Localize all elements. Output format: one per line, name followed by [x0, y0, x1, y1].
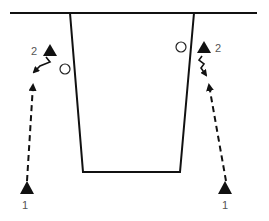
right-player-1-triangle-icon: [218, 181, 232, 194]
right-player-1-cut-path: [209, 85, 226, 181]
left-player-1-label: 1: [22, 199, 28, 211]
right-player-2-cut-path: [199, 56, 206, 75]
play-diagram: 1 2 1 2: [0, 0, 269, 221]
left-player-1-cut-path: [27, 85, 33, 181]
diagram-canvas: 1 2 1 2: [0, 0, 269, 221]
right-player-2-label: 2: [215, 42, 221, 54]
right-defender-circle-icon: [176, 42, 186, 52]
left-player-2-label: 2: [31, 45, 37, 57]
left-player-2-triangle-icon: [43, 44, 57, 56]
left-player-2-cut-path: [34, 57, 50, 72]
left-player-1-triangle-icon: [20, 181, 34, 194]
left-defender-circle-icon: [60, 64, 70, 74]
right-player-2-triangle-icon: [197, 41, 211, 53]
right-player-1-label: 1: [222, 199, 228, 211]
lane-outline: [70, 13, 194, 172]
